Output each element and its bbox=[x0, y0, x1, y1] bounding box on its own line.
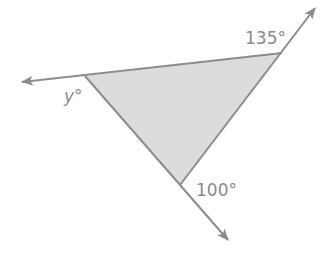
angle-label-y: y° bbox=[63, 86, 83, 106]
triangle-diagram: 135° y° 100° bbox=[0, 0, 325, 261]
angle-label-135: 135° bbox=[245, 28, 286, 48]
angle-label-100: 100° bbox=[196, 180, 237, 200]
triangle-fill bbox=[85, 53, 282, 185]
